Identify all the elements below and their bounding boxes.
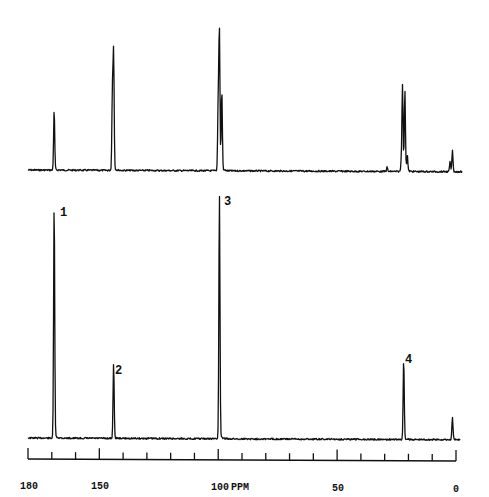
nmr-spectrum-figure: 1 2 3 4 180 150 100 PPM 50 0 — [0, 0, 489, 497]
lower-spectrum — [28, 196, 460, 440]
peak-label-4: 4 — [405, 353, 412, 367]
peak-label-2: 2 — [115, 364, 122, 378]
upper-spectrum — [28, 28, 462, 172]
x-tick-label-50: 50 — [332, 483, 344, 494]
upper-spectrum-trace — [28, 28, 462, 172]
x-tick-label-0: 0 — [453, 484, 459, 495]
x-axis — [28, 448, 456, 461]
x-tick-label-150: 150 — [91, 481, 109, 492]
peak-label-3: 3 — [224, 195, 231, 209]
peak-label-1: 1 — [60, 206, 67, 220]
x-axis-unit-label: PPM — [231, 482, 249, 493]
lower-spectrum-trace — [28, 196, 460, 440]
x-tick-label-100: 100 — [211, 482, 229, 493]
x-tick-label-180: 180 — [20, 481, 38, 492]
